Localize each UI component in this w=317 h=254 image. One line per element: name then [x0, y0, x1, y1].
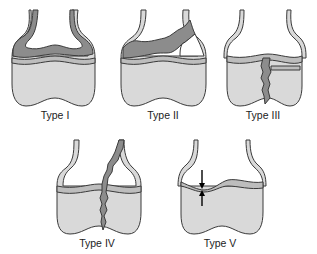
panel-type-5: [178, 140, 266, 234]
label-type-5: Type V: [204, 237, 237, 249]
label-type-4: Type IV: [79, 237, 115, 249]
panel-type-2: [121, 10, 206, 106]
panel-type-1: [12, 10, 95, 106]
salter-harris-diagram: Type I Type II Type III Type IV Type V: [0, 0, 317, 254]
panel-type-4: [57, 140, 141, 234]
label-type-1: Type I: [41, 109, 70, 121]
label-type-3: Type III: [246, 109, 280, 121]
diagram-canvas: [0, 0, 317, 254]
panel-type-3: [224, 10, 306, 106]
label-type-2: Type II: [147, 109, 179, 121]
